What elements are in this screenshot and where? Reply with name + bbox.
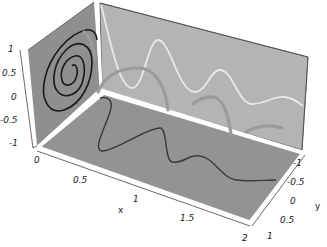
svg-text:-1: -1 xyxy=(293,158,302,168)
svg-text:-0.5: -0.5 xyxy=(0,115,18,125)
z-tick-labels: 1 0.5 0 -0.5 -1 xyxy=(0,44,18,148)
svg-text:2: 2 xyxy=(242,233,248,243)
svg-text:1: 1 xyxy=(267,231,273,241)
svg-text:-0.5: -0.5 xyxy=(287,177,305,187)
svg-text:0: 0 xyxy=(34,155,40,165)
svg-text:0.5: 0.5 xyxy=(2,68,17,78)
3d-plot: 1 0.5 0 -0.5 -1 0 0.5 1 1.5 2 -1 -0.5 0 … xyxy=(0,0,327,247)
svg-text:1: 1 xyxy=(133,194,139,204)
x-axis-title: x xyxy=(118,205,124,215)
svg-text:-1: -1 xyxy=(9,138,18,148)
svg-text:1.5: 1.5 xyxy=(180,213,195,223)
svg-text:0.5: 0.5 xyxy=(73,175,88,185)
svg-text:1: 1 xyxy=(8,44,14,54)
svg-text:0: 0 xyxy=(290,196,296,206)
svg-text:0.5: 0.5 xyxy=(280,215,295,225)
svg-text:0: 0 xyxy=(11,92,17,102)
y-axis-title: y xyxy=(315,201,321,211)
